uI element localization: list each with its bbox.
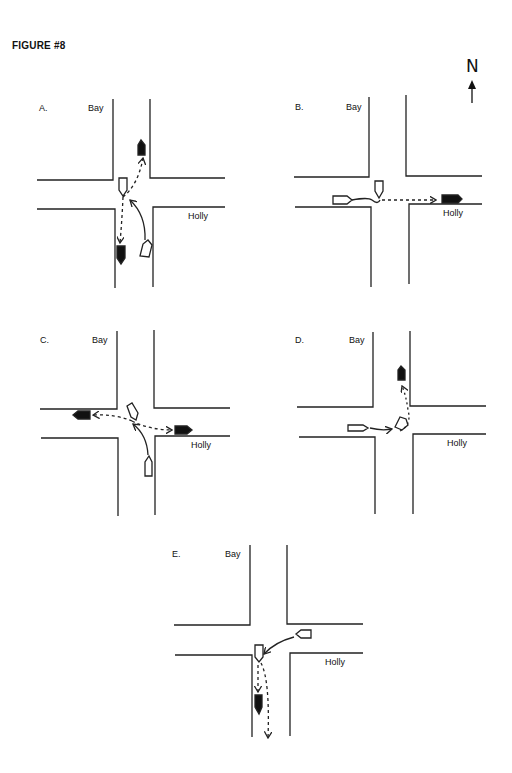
- figure-diagram: A. Bay Holly B. Bay Holly C. Bay Holly D…: [0, 0, 512, 773]
- panel-a: [37, 99, 225, 288]
- panel-a-street-ns: Bay: [88, 103, 104, 113]
- panel-e-street-ew: Holly: [325, 657, 346, 667]
- panel-b-street-ns: Bay: [346, 102, 362, 112]
- panel-e-street-ns: Bay: [225, 549, 241, 559]
- panel-d-street-ew: Holly: [447, 438, 468, 448]
- panel-e: [174, 545, 363, 738]
- panel-c-street-ew: Holly: [191, 440, 212, 450]
- panel-d: [297, 331, 486, 514]
- panel-c-street-ns: Bay: [92, 335, 108, 345]
- panel-d-label: D.: [295, 335, 304, 345]
- panel-b-label: B.: [295, 102, 304, 112]
- panel-a-label: A.: [39, 103, 48, 113]
- panel-d-street-ns: Bay: [349, 335, 365, 345]
- panel-c: [40, 330, 230, 516]
- panel-c-label: C.: [40, 335, 49, 345]
- panel-e-label: E.: [172, 549, 181, 559]
- panel-a-street-ew: Holly: [188, 211, 209, 221]
- panel-b-street-ew: Holly: [443, 208, 464, 218]
- panel-b: [294, 95, 482, 287]
